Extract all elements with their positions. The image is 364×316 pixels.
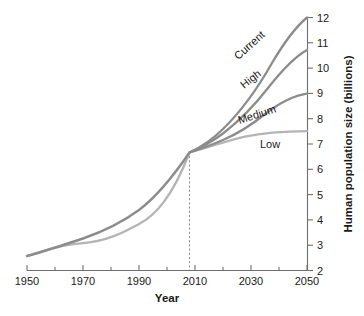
x-axis-title: Year [155,292,180,304]
y-tick-label: 4 [317,214,323,226]
y-tick-label: 10 [317,62,329,74]
y-tick-label: 9 [317,87,323,99]
y-tick-labels: 2 3 4 5 6 7 8 9 10 11 12 [317,12,329,277]
y-tick-label: 11 [317,37,328,49]
series-label-current: Current [232,28,267,61]
y-tick-label: 6 [317,163,323,175]
x-tick-labels: 1950 1970 1990 2010 2030 2050 [15,275,319,287]
y-tick-label: 8 [317,113,323,125]
y-tick-label: 2 [317,265,323,277]
y-tick-label: 12 [317,12,329,24]
x-tick-label: 2010 [183,275,207,287]
population-projection-chart: 1950 1970 1990 2010 2030 2050 2 3 4 5 6 … [0,0,364,316]
series-label-low: Low [260,138,280,150]
x-tick-label: 1970 [71,275,95,287]
chart-canvas: 1950 1970 1990 2010 2030 2050 2 3 4 5 6 … [0,0,364,316]
y-tick-label: 5 [317,189,323,201]
x-tick-label: 1990 [127,275,151,287]
curve-historical-trunk [27,153,190,257]
y-axis-title: Human population size (billions) [342,55,354,232]
y-tick-label: 3 [317,239,323,251]
x-tick-label: 1950 [15,275,39,287]
x-tick-label: 2030 [239,275,263,287]
y-axis-ticks [308,18,314,271]
series-label-high: High [238,67,263,90]
y-tick-label: 7 [317,138,323,150]
x-tick-label: 2050 [295,275,319,287]
